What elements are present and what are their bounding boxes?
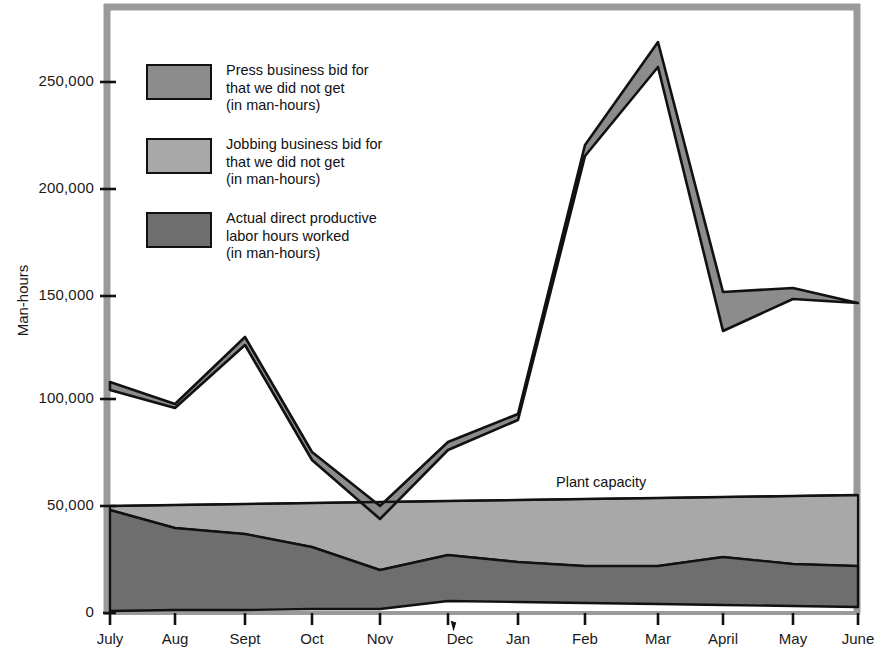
plant-capacity-annotation: Plant capacity xyxy=(556,474,646,490)
y-tick-label-250000: 250,000 xyxy=(0,72,94,89)
legend-label-actual-labor: Actual direct productive labor hours wor… xyxy=(226,210,377,263)
x-tick-label-aug: Aug xyxy=(135,630,215,647)
legend-swatch-jobbing-business xyxy=(146,138,212,174)
legend-swatch-press-business xyxy=(146,64,212,100)
x-tick-label-june: June xyxy=(818,630,881,647)
legend-swatch-actual-labor xyxy=(146,212,212,248)
y-tick-label-100000: 100,000 xyxy=(0,389,94,406)
legend-label-jobbing-business: Jobbing business bid for that we did not… xyxy=(226,136,382,189)
x-tick-label-nov: Nov xyxy=(340,630,420,647)
y-tick-label-150000: 150,000 xyxy=(0,286,94,303)
legend-item-press-business: Press business bid for that we did not g… xyxy=(146,62,369,115)
legend-item-actual-labor: Actual direct productive labor hours wor… xyxy=(146,210,377,263)
y-tick-label-200000: 200,000 xyxy=(0,179,94,196)
chart-container: Man-hours 250,000 200,000 150,000 100,00… xyxy=(0,0,881,649)
x-tick-label-feb: Feb xyxy=(545,630,625,647)
x-tick-label-april: April xyxy=(683,630,763,647)
y-tick-label-50000: 50,000 xyxy=(0,496,94,513)
chart-plot-area xyxy=(0,0,881,649)
y-tick-label-0: 0 xyxy=(0,603,94,620)
legend-label-press-business: Press business bid for that we did not g… xyxy=(226,62,369,115)
legend-item-jobbing-business: Jobbing business bid for that we did not… xyxy=(146,136,382,189)
